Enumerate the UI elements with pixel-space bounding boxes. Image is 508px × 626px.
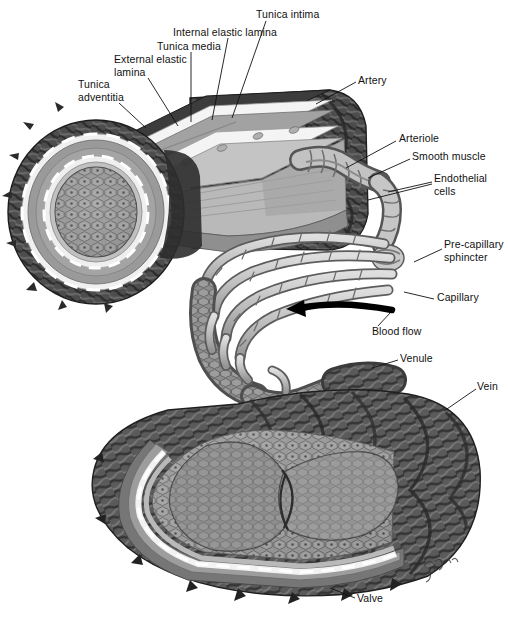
blood-flow-arrow: [286, 300, 392, 317]
blood-vessel-diagram: Tunica adventitiaExternal elastic lamina…: [0, 0, 508, 626]
leader-line-vein: [444, 389, 476, 411]
label-artery: Artery: [358, 74, 387, 87]
label-tunica-adventitia: Tunica adventitia: [78, 78, 124, 103]
label-vein: Vein: [477, 380, 498, 393]
label-arteriole: Arteriole: [399, 132, 439, 145]
label-venule: Venule: [400, 352, 433, 365]
label-tunica-intima: Tunica intima: [256, 8, 319, 21]
label-tunica-media: Tunica media: [157, 40, 221, 53]
leader-line-capillary: [404, 292, 434, 299]
label-internal-elastic-lamina: Internal elastic lamina: [173, 26, 277, 39]
label-pre-capillary-sphincter: Pre-capillary sphincter: [444, 238, 504, 263]
vein-structure: [92, 390, 480, 604]
label-capillary: Capillary: [437, 291, 479, 304]
venule-structure: [336, 376, 392, 382]
leader-line-pre-capillary-sphincter: [414, 249, 442, 262]
label-blood-flow: Blood flow: [372, 325, 421, 338]
label-endothelial-cells: Endothelial cells: [434, 172, 487, 197]
label-external-elastic-lamina: External elastic lamina: [114, 53, 187, 78]
label-valve: Valve: [357, 592, 383, 605]
diagram-artwork: [0, 0, 508, 626]
label-smooth-muscle: Smooth muscle: [412, 150, 486, 163]
